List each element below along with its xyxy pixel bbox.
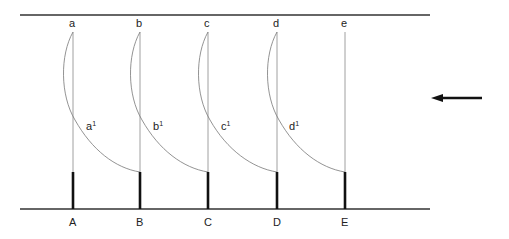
bottom-label-B: B — [136, 216, 143, 228]
diagram-canvas: a A a1 b B b1 c C c1 d D d1 e E — [0, 0, 509, 239]
column-e: e E — [341, 17, 348, 228]
top-label-d: d — [273, 17, 279, 29]
column-a: a A a1 — [63, 17, 140, 228]
curve-label-b1: b1 — [153, 120, 163, 132]
top-label-c: c — [204, 17, 210, 29]
column-d: d D d1 — [267, 17, 345, 228]
arc-d — [267, 32, 345, 172]
top-label-a: a — [69, 17, 76, 29]
top-label-b: b — [136, 17, 142, 29]
bottom-label-C: C — [204, 216, 212, 228]
bottom-label-D: D — [273, 216, 281, 228]
left-arrow-icon — [431, 94, 482, 102]
arc-b — [130, 32, 208, 172]
column-b: b B b1 — [130, 17, 208, 228]
bottom-label-A: A — [69, 216, 77, 228]
curve-label-a1: a1 — [86, 120, 96, 132]
arc-a — [63, 32, 140, 172]
column-c: c C c1 — [198, 17, 277, 228]
curve-label-c1: c1 — [221, 120, 231, 132]
bottom-label-E: E — [341, 216, 348, 228]
curve-label-d1: d1 — [289, 120, 299, 132]
top-label-e: e — [341, 17, 347, 29]
arc-c — [198, 32, 277, 172]
